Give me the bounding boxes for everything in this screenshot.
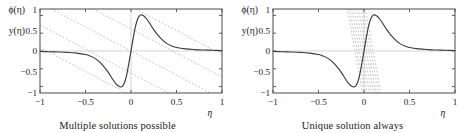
y-tick-label-0.5: 0.5: [259, 26, 271, 36]
figure-container: 1 0.5 0 −0.5 −1 ϕ(η) y(η) −1 −0.5 0 0.5 …: [0, 0, 470, 133]
x-tick-label-neg0.5: −0.5: [310, 97, 327, 107]
y-axis-label-y: y(η): [242, 25, 258, 37]
plot-panel-right: 1 0.5 0 −0.5 −1 ϕ(η) y(η) −1 −0.5 0 0.5 …: [235, 0, 470, 133]
dotted-solution-line: [93, 9, 222, 77]
x-tick-label-0: 0: [362, 97, 367, 107]
caption-left: Multiple solutions possible: [0, 120, 235, 131]
y-tick-label-0.5: 0.5: [26, 26, 38, 36]
y-tick-label-1: 1: [32, 5, 37, 15]
x-axis-label-eta: η: [208, 107, 213, 118]
y-axis-label-phi: ϕ(η): [242, 4, 258, 16]
x-tick-label-neg1: −1: [268, 97, 278, 107]
y-tick-label-1: 1: [265, 5, 270, 15]
x-axis-label-eta: η: [441, 107, 446, 118]
y-tick-label-0: 0: [32, 46, 37, 56]
x-tick-label-0.5: 0.5: [404, 97, 416, 107]
plot-panel-left: 1 0.5 0 −0.5 −1 ϕ(η) y(η) −1 −0.5 0 0.5 …: [0, 0, 235, 133]
x-tick-label-1: 1: [220, 97, 225, 107]
plot-svg-left: 1 0.5 0 −0.5 −1 ϕ(η) y(η) −1 −0.5 0 0.5 …: [0, 0, 235, 133]
x-tick-label-1: 1: [453, 97, 458, 107]
y-tick-label-neg0.5: −0.5: [20, 67, 37, 77]
y-axis-label-phi: ϕ(η): [9, 4, 25, 16]
y-axis-label-y: y(η): [9, 25, 25, 37]
x-tick-label-neg1: −1: [35, 97, 45, 107]
x-tick-label-0: 0: [129, 97, 134, 107]
x-tick-label-neg0.5: −0.5: [77, 97, 94, 107]
plot-svg-right: 1 0.5 0 −0.5 −1 ϕ(η) y(η) −1 −0.5 0 0.5 …: [235, 0, 470, 133]
x-tick-label-0.5: 0.5: [171, 97, 183, 107]
caption-right: Unique solution always: [235, 120, 470, 131]
y-tick-label-0: 0: [265, 46, 270, 56]
y-tick-label-neg0.5: −0.5: [253, 67, 270, 77]
dotted-solution-line: [40, 25, 169, 93]
